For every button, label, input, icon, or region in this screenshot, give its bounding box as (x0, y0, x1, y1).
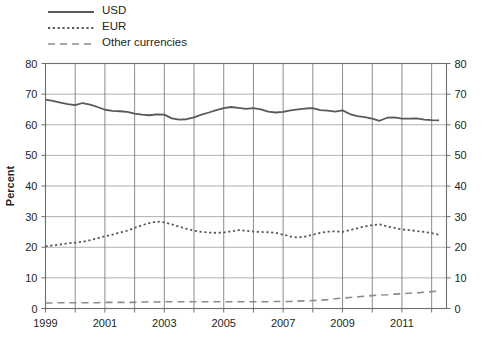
y-axis-left-tick-label: 60 (25, 119, 37, 131)
grid-lines (46, 64, 447, 309)
chart-figure: USD EUR Other currencies 001010202030304… (0, 0, 482, 346)
axis-labels: 0010102020303040405050606070708080199920… (25, 58, 467, 329)
chart-plot: 0010102020303040405050606070708080199920… (0, 0, 482, 346)
y-axis-right-tick-label: 20 (455, 241, 467, 253)
y-axis-right-tick-label: 30 (455, 211, 467, 223)
x-axis-tick-label: 2005 (211, 317, 235, 329)
y-axis-right-tick-label: 70 (455, 88, 467, 100)
x-axis-tick-label: 2001 (93, 317, 117, 329)
y-axis-right-tick-label: 60 (455, 119, 467, 131)
y-axis-left-tick-label: 10 (25, 272, 37, 284)
y-axis-left-tick-label: 30 (25, 211, 37, 223)
y-axis-left-tick-label: 70 (25, 88, 37, 100)
x-axis-tick-label: 2007 (271, 317, 295, 329)
axis-ticks (42, 64, 451, 313)
y-axis-right-tick-label: 40 (455, 180, 467, 192)
x-axis-tick-label: 1999 (33, 317, 57, 329)
y-axis-left-tick-label: 80 (25, 58, 37, 70)
x-axis-tick-label: 2003 (152, 317, 176, 329)
y-axis-left-tick-label: 40 (25, 180, 37, 192)
y-axis-right-tick-label: 50 (455, 149, 467, 161)
y-axis-left-tick-label: 50 (25, 149, 37, 161)
y-axis-right-tick-label: 80 (455, 58, 467, 70)
y-axis-title-label: Percent (4, 165, 16, 206)
y-axis-left-tick-label: 20 (25, 241, 37, 253)
y-axis-right-tick-label: 10 (455, 272, 467, 284)
x-axis-tick-label: 2009 (330, 317, 354, 329)
x-axis-tick-label: 2011 (390, 317, 414, 329)
y-axis-left-tick-label: 0 (31, 303, 37, 315)
y-axis-right-tick-label: 0 (455, 303, 461, 315)
y-axis-title: Percent (4, 165, 16, 206)
